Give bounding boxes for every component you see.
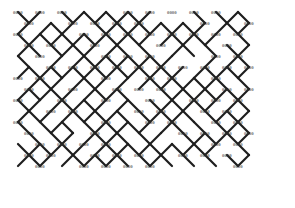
node-label: 0000 <box>35 10 45 15</box>
node-label: 0000 <box>57 98 67 103</box>
lattice-segment <box>183 78 194 89</box>
lattice-segment <box>51 78 62 89</box>
node-label: 0000 <box>68 65 78 70</box>
node-label: 0000 <box>79 164 89 169</box>
node-label: 0000 <box>101 54 111 59</box>
node-labels: 0000000000000000000000000000000000000000… <box>13 10 254 169</box>
lattice-segment <box>161 155 172 166</box>
lattice-segment <box>183 45 194 56</box>
node-label: 0000 <box>244 65 254 70</box>
lattice-segment <box>227 12 238 23</box>
node-label: 0000 <box>167 76 177 81</box>
node-label: 0000 <box>211 54 221 59</box>
node-label: 0000 <box>222 65 232 70</box>
node-label: 0000 <box>90 153 100 158</box>
node-label: 0000 <box>167 32 177 37</box>
node-label: 0000 <box>112 21 122 26</box>
node-label: 0000 <box>101 98 111 103</box>
node-label: 0000 <box>145 76 155 81</box>
node-label: 0000 <box>189 32 199 37</box>
node-label: 0000 <box>101 120 111 125</box>
node-label: 0000 <box>134 109 144 114</box>
node-label: 0000 <box>79 142 89 147</box>
node-label: 0000 <box>167 120 177 125</box>
node-label: 0000 <box>233 32 243 37</box>
node-label: 0000 <box>244 87 254 92</box>
lattice-segment <box>51 122 62 133</box>
node-label: 0000 <box>35 142 45 147</box>
lattice-segment <box>161 144 172 155</box>
node-label: 0000 <box>211 10 221 15</box>
lattice-segment <box>40 89 51 100</box>
node-label: 0000 <box>233 164 243 169</box>
node-label: 0000 <box>35 54 45 59</box>
node-label: 0000 <box>189 98 199 103</box>
node-label: 0000 <box>211 120 221 125</box>
node-label: 0000 <box>68 21 78 26</box>
lattice-segment <box>51 23 62 34</box>
lattice-segment <box>18 56 29 67</box>
node-label: 0000 <box>101 76 111 81</box>
node-label: 0000 <box>233 142 243 147</box>
lattice-segment <box>84 100 95 111</box>
node-label: 0000 <box>145 120 155 125</box>
lattice-segment <box>172 45 183 56</box>
node-label: 0000 <box>13 120 23 125</box>
node-label: 0000 <box>24 87 34 92</box>
node-label: 0000 <box>244 131 254 136</box>
lattice-segment <box>62 34 73 45</box>
node-label: 0000 <box>156 87 166 92</box>
node-label: 0000 <box>222 153 232 158</box>
node-label: 0000 <box>134 21 144 26</box>
lattice-segment <box>29 100 40 111</box>
node-label: 0000 <box>13 98 23 103</box>
lattice-segment <box>128 122 139 133</box>
lattice-segment <box>150 144 161 155</box>
node-label: 0000 <box>24 131 34 136</box>
node-label: 0000 <box>178 153 188 158</box>
node-label: 0000 <box>101 142 111 147</box>
lattice-segment <box>62 155 73 166</box>
node-label: 0000 <box>112 153 122 158</box>
node-label: 0000 <box>112 65 122 70</box>
lattice-segment <box>29 111 40 122</box>
node-label: 0000 <box>156 65 166 70</box>
node-label: 0000 <box>24 153 34 158</box>
node-label: 0000 <box>200 109 210 114</box>
lattice-segment <box>117 111 128 122</box>
node-label: 0000 <box>123 164 133 169</box>
lattice-segment <box>84 111 95 122</box>
lattice-segment <box>117 100 128 111</box>
node-label: 0000 <box>222 131 232 136</box>
node-label: 0000 <box>123 32 133 37</box>
node-label: 0000 <box>90 43 100 48</box>
node-label: 0000 <box>244 21 254 26</box>
node-label: 0000 <box>46 43 56 48</box>
lattice-segment <box>84 89 95 100</box>
node-label: 0000 <box>200 21 210 26</box>
node-label: 0000 <box>178 131 188 136</box>
node-label: 0000 <box>35 76 45 81</box>
lattice-segment <box>40 23 51 34</box>
node-label: 0000 <box>134 65 144 70</box>
lattice-segment <box>117 133 128 144</box>
node-label: 0000 <box>233 54 243 59</box>
node-label: 0000 <box>24 43 34 48</box>
node-label: 0000 <box>211 76 221 81</box>
node-label: 0000 <box>222 109 232 114</box>
node-label: 0000 <box>13 10 23 15</box>
lattice-segment <box>183 111 194 122</box>
lattice-segment <box>84 78 95 89</box>
node-label: 0000 <box>200 65 210 70</box>
node-label: 0000 <box>233 98 243 103</box>
lattice-segment <box>172 89 183 100</box>
node-label: 0000 <box>57 142 67 147</box>
node-label: 0000 <box>90 65 100 70</box>
node-label: 0000 <box>123 54 133 59</box>
node-label: 0000 <box>13 32 23 37</box>
node-label: 0000 <box>145 32 155 37</box>
node-label: 0000 <box>46 109 56 114</box>
lattice-segment <box>150 133 161 144</box>
node-label: 0000 <box>222 43 232 48</box>
lattice-segment <box>62 122 73 133</box>
